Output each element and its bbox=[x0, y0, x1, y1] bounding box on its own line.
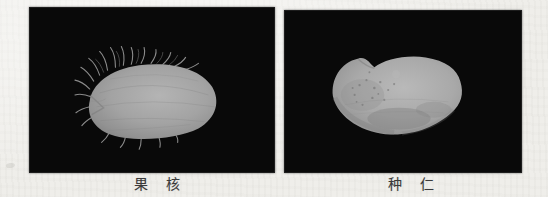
paper-smudge bbox=[6, 162, 16, 168]
seed-kernel-photo-panel bbox=[284, 10, 522, 173]
seed-kernel-caption: 种 仁 bbox=[388, 176, 436, 192]
fruit-stone-caption: 果 核 bbox=[134, 176, 182, 192]
figure-plate: 果 核 种 仁 bbox=[0, 0, 548, 197]
fruit-stone-image bbox=[30, 8, 274, 172]
seed-kernel-image bbox=[285, 11, 521, 172]
fruit-stone-photo-panel bbox=[29, 7, 275, 173]
